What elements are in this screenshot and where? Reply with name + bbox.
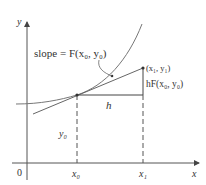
point-x0-y0 xyxy=(75,93,78,96)
x1-tick-label: x₁ xyxy=(138,168,147,179)
slope-pointer xyxy=(99,60,112,76)
x-axis-label: x xyxy=(191,168,197,179)
point-x1-y1 xyxy=(141,66,144,69)
rise-label: hF(x₀, y₀) xyxy=(146,79,183,90)
slope-label: slope = F(x₀, y₀) xyxy=(34,47,107,60)
step-label: h xyxy=(106,99,112,111)
euler-diagram: y 0 x slope = F(x₀, y₀) (x₁, y₁) hF(x₀, … xyxy=(0,0,206,185)
tangent-line xyxy=(33,68,143,114)
origin-label: 0 xyxy=(17,167,22,178)
solution-curve xyxy=(16,24,142,104)
x0-tick-label: x₀ xyxy=(71,168,80,179)
point1-label: (x₁, y₁) xyxy=(146,63,171,73)
y0-label: y₀ xyxy=(58,128,67,139)
y-axis-label: y xyxy=(16,16,22,27)
